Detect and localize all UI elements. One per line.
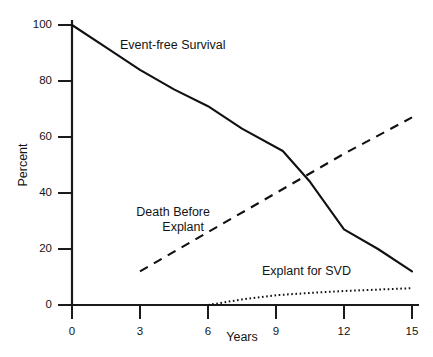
chart-plot-area [0, 0, 433, 357]
y-tick-label-60: 60 [18, 131, 52, 143]
series-label-death-before-explant: Death Before Explant [105, 205, 210, 235]
chart-container: 100 80 60 40 20 0 0 3 6 9 12 15 Percent … [0, 0, 433, 357]
x-tick-label-12: 12 [338, 326, 351, 338]
x-axis-ticks [72, 305, 412, 319]
series-line-death-before-explant [140, 117, 412, 271]
x-tick-label-15: 15 [406, 326, 419, 338]
y-tick-label-40: 40 [18, 187, 52, 199]
y-axis-ticks [58, 25, 72, 305]
series-label-death-before-explant-line1: Death Before [105, 205, 210, 220]
y-tick-label-20: 20 [18, 243, 52, 255]
y-tick-label-100: 100 [18, 19, 52, 31]
series-label-event-free-survival: Event-free Survival [120, 38, 226, 53]
series-label-explant-for-svd: Explant for SVD [262, 264, 351, 279]
x-tick-label-6: 6 [205, 326, 211, 338]
x-tick-label-9: 9 [273, 326, 279, 338]
y-axis-title: Percent [17, 143, 30, 186]
x-tick-label-0: 0 [69, 326, 75, 338]
series-line-explant-for-svd [208, 288, 412, 305]
x-tick-label-3: 3 [137, 326, 143, 338]
y-tick-label-80: 80 [18, 75, 52, 87]
x-axis-title: Years [226, 331, 258, 344]
y-tick-label-0: 0 [18, 299, 52, 311]
series-label-death-before-explant-line2: Explant [105, 220, 210, 235]
